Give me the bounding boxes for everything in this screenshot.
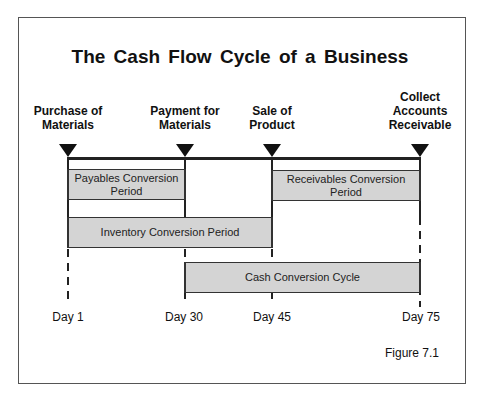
period-receivables-conversion: Receivables ConversionPeriod bbox=[271, 170, 421, 201]
day-label: Day 1 bbox=[38, 310, 98, 324]
period-label: Payables Conversion bbox=[75, 172, 179, 185]
event-label-line: Receivable bbox=[365, 118, 475, 132]
day-label: Day 75 bbox=[391, 310, 451, 324]
day-label: Day 30 bbox=[154, 310, 214, 324]
period-cash-conversion-cycle: Cash Conversion Cycle bbox=[184, 262, 421, 293]
triangle-marker-icon bbox=[411, 144, 429, 157]
event-label-line: Product bbox=[217, 118, 327, 132]
day-label: Day 45 bbox=[242, 310, 302, 324]
timeline-axis bbox=[68, 157, 421, 160]
period-payables-conversion: Payables ConversionPeriod bbox=[67, 169, 186, 200]
dashed-guide-day1 bbox=[67, 249, 69, 303]
period-label: Receivables Conversion bbox=[287, 173, 406, 186]
figure-caption: Figure 7.1 bbox=[385, 346, 439, 360]
period-label: Period bbox=[287, 186, 406, 199]
event-label-line: Materials bbox=[13, 118, 123, 132]
period-label: Cash Conversion Cycle bbox=[245, 271, 360, 284]
event-label-line: Accounts bbox=[365, 104, 475, 118]
event-label-line: Sale of bbox=[217, 104, 327, 118]
period-label: Inventory Conversion Period bbox=[101, 226, 240, 239]
event-label-line: Collect bbox=[365, 90, 475, 104]
period-label: Period bbox=[75, 185, 179, 198]
event-purchase-of-materials: Purchase of Materials bbox=[13, 104, 123, 132]
triangle-marker-icon bbox=[59, 144, 77, 157]
event-sale-of-product: Sale of Product bbox=[217, 104, 327, 132]
event-label-line: Purchase of bbox=[13, 104, 123, 118]
event-collect-accounts-receivable: Collect Accounts Receivable bbox=[365, 90, 475, 132]
triangle-marker-icon bbox=[263, 144, 281, 157]
triangle-marker-icon bbox=[176, 144, 194, 157]
diagram-title: The Cash Flow Cycle of a Business bbox=[0, 46, 480, 68]
period-inventory-conversion: Inventory Conversion Period bbox=[67, 217, 273, 248]
